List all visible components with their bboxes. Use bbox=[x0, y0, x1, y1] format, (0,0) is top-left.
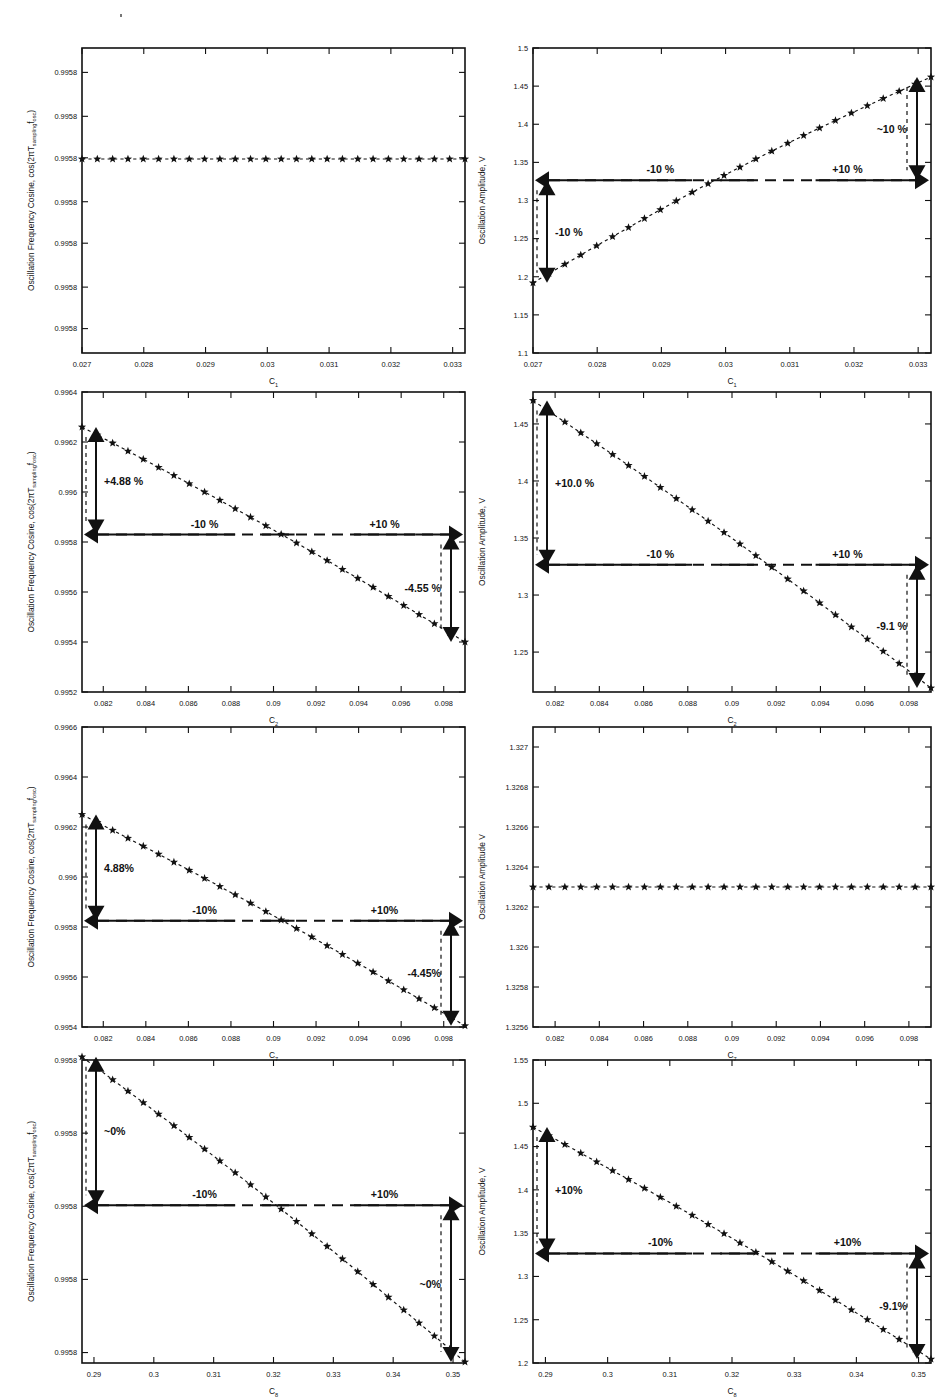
data-point-marker bbox=[609, 883, 617, 891]
data-point-marker bbox=[752, 155, 760, 163]
data-point-marker bbox=[736, 163, 744, 171]
data-point-marker bbox=[593, 241, 601, 249]
delta-arrow-up bbox=[539, 401, 556, 416]
y-tick-label: 1.4 bbox=[518, 477, 528, 486]
data-point-marker bbox=[231, 1169, 239, 1177]
percent-annotation: -9.1% bbox=[879, 1300, 907, 1312]
y-axis-title: Oscillation Frequency Cosine, cos(2πTsam… bbox=[26, 110, 37, 291]
x-tick-label: 0.092 bbox=[307, 1034, 326, 1043]
delta-arrow-up bbox=[539, 1127, 556, 1142]
y-tick-label: 1.45 bbox=[514, 82, 528, 91]
data-point-marker bbox=[863, 883, 871, 891]
percent-annotation: -10% bbox=[192, 1188, 217, 1200]
y-tick-label: 1.15 bbox=[514, 311, 528, 320]
data-point-marker bbox=[609, 1166, 617, 1174]
data-point-marker bbox=[246, 155, 254, 163]
y-tick-label: 1.5 bbox=[518, 44, 528, 53]
data-point-marker bbox=[609, 232, 617, 240]
data-point-marker bbox=[200, 874, 208, 882]
y-tick-label: 1.25 bbox=[514, 234, 528, 243]
data-point-marker bbox=[170, 858, 178, 866]
percent-annotation: ~0% bbox=[420, 1278, 442, 1290]
data-point-marker bbox=[879, 883, 887, 891]
y-tick-label: 0.9958 bbox=[54, 283, 77, 292]
axes-box bbox=[82, 392, 465, 692]
y-tick-label: 0.9958 bbox=[54, 1129, 77, 1138]
data-point-marker bbox=[847, 883, 855, 891]
data-point-marker bbox=[109, 826, 117, 834]
delta-arrow-up bbox=[909, 77, 926, 92]
data-point-marker bbox=[800, 131, 808, 139]
data-point-marker bbox=[338, 565, 346, 573]
x-tick-label: 0.09 bbox=[725, 1034, 739, 1043]
x-tick-label: 0.3 bbox=[149, 1370, 159, 1379]
x-tick-label: 0.33 bbox=[326, 1370, 340, 1379]
data-point-marker bbox=[736, 540, 744, 548]
data-point-marker bbox=[277, 155, 285, 163]
axes-box bbox=[82, 48, 465, 353]
data-point-marker bbox=[593, 1158, 601, 1166]
x-tick-label: 0.088 bbox=[222, 1034, 241, 1043]
x-tick-label: 0.082 bbox=[94, 699, 113, 708]
plot-panel-p7: 0.290.30.310.320.330.340.350.99580.99580… bbox=[0, 1050, 479, 1399]
percent-annotation: -10 % bbox=[647, 548, 675, 560]
data-point-marker bbox=[879, 1325, 887, 1333]
x-tick-label: 0.31 bbox=[206, 1370, 220, 1379]
x-tick-label: 0.027 bbox=[73, 360, 92, 369]
x-tick-label: 0.088 bbox=[679, 699, 698, 708]
data-point-marker bbox=[78, 1053, 86, 1061]
data-point-marker bbox=[577, 429, 585, 437]
data-point-marker bbox=[672, 197, 680, 205]
y-tick-label: 1.3262 bbox=[505, 903, 528, 912]
percent-annotation: -9.1 % bbox=[876, 620, 907, 632]
data-point-marker bbox=[124, 447, 132, 455]
x-tick-label: 0.096 bbox=[392, 699, 411, 708]
data-point-marker bbox=[704, 1220, 712, 1228]
data-point-marker bbox=[185, 155, 193, 163]
data-point-marker bbox=[216, 882, 224, 890]
percent-annotation: ~10 % bbox=[877, 123, 908, 135]
y-tick-label: 1.2 bbox=[518, 1359, 528, 1368]
data-point-marker bbox=[446, 155, 454, 163]
y-tick-label: 1.35 bbox=[514, 534, 528, 543]
data-point-marker bbox=[292, 539, 300, 547]
data-point-marker bbox=[292, 155, 300, 163]
data-point-marker bbox=[308, 933, 316, 941]
data-point-marker bbox=[609, 450, 617, 458]
delta-arrow-down-2 bbox=[909, 1344, 926, 1359]
percent-annotation: -4.45% bbox=[407, 967, 441, 979]
x-tick-label: 0.094 bbox=[349, 699, 368, 708]
data-point-marker bbox=[185, 479, 193, 487]
axes-box bbox=[533, 392, 931, 692]
y-tick-label: 1.35 bbox=[514, 158, 528, 167]
data-point-marker bbox=[640, 472, 648, 480]
y-tick-label: 0.9958 bbox=[54, 68, 77, 77]
x-tick-label: 0.03 bbox=[260, 360, 274, 369]
x-tick-label: 0.098 bbox=[434, 699, 453, 708]
data-point-marker bbox=[400, 155, 408, 163]
data-point-marker bbox=[216, 496, 224, 504]
delta-arrow-up bbox=[88, 1057, 105, 1072]
x-tick-label: 0.033 bbox=[909, 360, 928, 369]
data-point-marker bbox=[124, 1087, 132, 1095]
percent-annotation: -10 % bbox=[555, 226, 583, 238]
data-point-marker bbox=[308, 1230, 316, 1238]
data-point-marker bbox=[784, 883, 792, 891]
x-tick-label: 0.09 bbox=[725, 699, 739, 708]
y-tick-label: 1.327 bbox=[510, 743, 529, 752]
y-tick-label: 0.9952 bbox=[54, 688, 77, 697]
x-tick-label: 0.028 bbox=[135, 360, 154, 369]
plot-panel-p3: 0.0820.0840.0860.0880.090.0920.0940.0960… bbox=[0, 382, 479, 728]
data-point-marker bbox=[847, 623, 855, 631]
y-tick-label: 0.9958 bbox=[54, 1056, 77, 1065]
data-point-marker bbox=[863, 1315, 871, 1323]
data-point-marker bbox=[109, 439, 117, 447]
y-tick-label: 0.9958 bbox=[54, 1202, 77, 1211]
x-tick-label: 0.33 bbox=[787, 1370, 801, 1379]
data-point-marker bbox=[545, 883, 553, 891]
data-point-marker bbox=[262, 1193, 270, 1201]
y-axis-title: Oscillation Amplitude, V bbox=[477, 156, 487, 244]
data-point-marker bbox=[624, 883, 632, 891]
data-point-marker bbox=[672, 494, 680, 502]
x-tick-label: 0.094 bbox=[811, 1034, 830, 1043]
